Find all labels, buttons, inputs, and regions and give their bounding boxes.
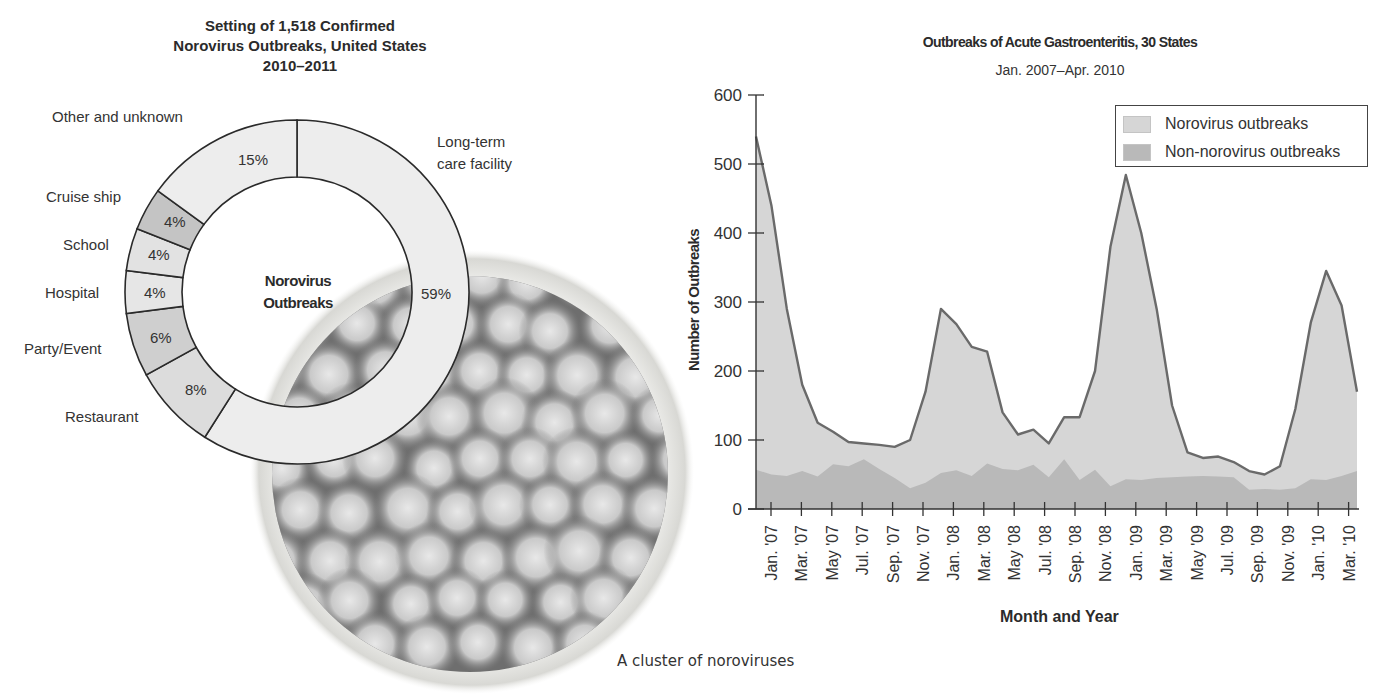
x-tick-label: Mar. '09 <box>1158 525 1175 582</box>
y-tick-label: 500 <box>714 155 742 174</box>
x-tick-label: Jan. '08 <box>945 525 962 581</box>
x-tick-label: Sep. '08 <box>1067 525 1084 583</box>
x-tick-label: Nov. '09 <box>1280 525 1297 582</box>
x-tick-label: Jul. '09 <box>1219 525 1236 575</box>
chart-legend: Norovirus outbreaks Non-norovirus outbre… <box>1115 105 1368 167</box>
y-tick-label: 200 <box>714 362 742 381</box>
y-tick-label: 0 <box>733 500 742 519</box>
legend-swatch-non-norovirus <box>1123 144 1151 161</box>
x-tick-label: Mar. '08 <box>976 525 993 582</box>
x-tick-label: Jan. '07 <box>763 525 780 581</box>
y-tick-label: 600 <box>714 86 742 105</box>
legend-label-non-norovirus: Non-norovirus outbreaks <box>1165 143 1340 161</box>
y-tick-label: 300 <box>714 293 742 312</box>
x-tick-label: May '08 <box>1006 525 1023 581</box>
x-tick-label: Sep. '07 <box>885 525 902 583</box>
x-tick-label: May '07 <box>824 525 841 581</box>
legend-label-norovirus: Norovirus outbreaks <box>1165 115 1308 133</box>
x-tick-label: Mar. '10 <box>1341 525 1358 582</box>
x-tick-label: Sep. '09 <box>1249 525 1266 583</box>
x-tick-label: May '09 <box>1189 525 1206 581</box>
x-tick-label: Mar. '07 <box>793 525 810 582</box>
x-tick-label: Jan. '10 <box>1310 525 1327 581</box>
y-axis-label: Number of Outbreaks <box>685 229 702 371</box>
x-tick-label: Nov. '07 <box>915 525 932 582</box>
norovirus-area <box>756 136 1357 509</box>
y-tick-label: 100 <box>714 431 742 450</box>
x-tick-label: Nov. '08 <box>1097 525 1114 582</box>
legend-item-non-norovirus: Non-norovirus outbreaks <box>1123 142 1340 162</box>
x-tick-label: Jan. '09 <box>1128 525 1145 581</box>
x-tick-label: Jul. '08 <box>1037 525 1054 575</box>
x-axis-label: Month and Year <box>1000 608 1119 626</box>
x-tick-label: Jul. '07 <box>854 525 871 575</box>
y-tick-label: 400 <box>714 224 742 243</box>
total-outbreaks-line <box>756 136 1357 474</box>
legend-item-norovirus: Norovirus outbreaks <box>1123 114 1308 134</box>
legend-swatch-norovirus <box>1123 116 1151 133</box>
